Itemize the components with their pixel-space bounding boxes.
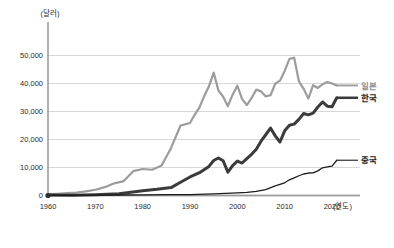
origin-marker-group	[45, 193, 50, 198]
y-tick-label: 30,000	[20, 107, 43, 116]
y-tick-label: 10,000	[20, 163, 43, 172]
x-tick-labels-group: 1960197019801990200020102020	[40, 202, 341, 211]
y-tick-label: 50,000	[20, 51, 43, 60]
gdp-per-capita-line-chart: 010,00020,00030,00040,00050,000 19601970…	[0, 0, 394, 248]
x-axis-unit-label: (연도)	[333, 202, 352, 211]
series-line	[48, 58, 337, 194]
y-tick-label: 0	[39, 191, 43, 200]
x-tick-label: 2010	[276, 202, 293, 211]
chart-canvas: 010,00020,00030,00040,00050,000 19601970…	[0, 0, 394, 248]
x-tick-label: 1980	[134, 202, 151, 211]
y-tick-label: 20,000	[20, 135, 43, 144]
x-tick-label: 1990	[182, 202, 199, 211]
y-tick-label: 40,000	[20, 79, 43, 88]
x-tick-label: 1970	[87, 202, 104, 211]
series-labels-group: 일본한국중국	[337, 81, 377, 166]
series-lines-group	[48, 58, 337, 196]
series-label-일본: 일본	[361, 81, 377, 91]
series-label-중국: 중국	[361, 155, 377, 165]
series-label-한국: 한국	[361, 93, 377, 103]
y-axis-unit-label: (달러)	[41, 9, 60, 18]
x-tick-label: 1960	[40, 202, 57, 211]
series-line	[48, 98, 337, 195]
origin-marker-dot	[45, 193, 50, 198]
x-tick-label: 2000	[229, 202, 246, 211]
y-tick-labels-group: 010,00020,00030,00040,00050,000	[20, 51, 43, 200]
gridlines-group	[48, 56, 360, 196]
